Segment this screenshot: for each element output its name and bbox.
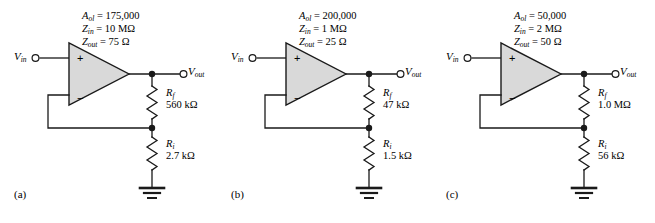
zout-value-a: 75 Ω bbox=[109, 36, 130, 47]
input-label-c: Vin bbox=[446, 51, 459, 63]
output-label-b: Vout bbox=[405, 66, 421, 78]
aol-equals-c: = bbox=[529, 10, 535, 21]
spec-zout-c: Zout = 50 Ω bbox=[514, 37, 566, 50]
circuit-panel-c: + − Aol = 50,000 Zin = 2 MΩ Zout = 50 Ω … bbox=[432, 0, 650, 223]
spec-zout-b: Zout = 25 Ω bbox=[299, 37, 357, 50]
zin-equals-b: = bbox=[313, 23, 319, 34]
wire-feedback-a bbox=[48, 95, 152, 128]
resistor-rf-c bbox=[579, 86, 589, 119]
circuit-panel-a: + − Aol = 175,000 Zin = 10 MΩ Zout = 75 … bbox=[0, 0, 218, 223]
opamp-specs-a: Aol = 175,000 Zin = 10 MΩ Zout = 75 Ω bbox=[82, 11, 140, 50]
zin-subscript-a: in bbox=[88, 27, 94, 36]
inverting-input-sign-b: − bbox=[294, 92, 300, 104]
zout-subscript-c: out bbox=[520, 40, 530, 49]
vin-symbol-a: V bbox=[14, 50, 21, 62]
resistor-ri-a bbox=[147, 137, 157, 170]
input-label-b: Vin bbox=[231, 51, 244, 63]
output-label-c: Vout bbox=[620, 66, 636, 78]
input-label-a: Vin bbox=[14, 51, 27, 63]
output-terminal-b bbox=[397, 71, 404, 78]
zout-value-c: 50 Ω bbox=[541, 36, 562, 47]
zout-equals-c: = bbox=[532, 36, 538, 47]
resistor-ri-b bbox=[364, 137, 374, 170]
aol-equals-a: = bbox=[97, 10, 103, 21]
panel-label-b: (b) bbox=[231, 189, 244, 200]
panel-label-a: (a) bbox=[14, 189, 26, 200]
rf-value-b: 47 kΩ bbox=[383, 100, 409, 111]
aol-value-a: 175,000 bbox=[105, 10, 139, 21]
vin-subscript-b: in bbox=[238, 55, 244, 64]
rf-label-b: Rf bbox=[383, 88, 392, 99]
aol-value-b: 200,000 bbox=[322, 10, 356, 21]
wire-feedback-c bbox=[480, 95, 584, 128]
aol-value-c: 50,000 bbox=[537, 10, 566, 21]
wire-feedback-b bbox=[265, 95, 369, 128]
ri-label-b: Ri bbox=[383, 139, 392, 150]
vin-subscript-a: in bbox=[21, 55, 27, 64]
zout-subscript-a: out bbox=[88, 40, 98, 49]
zin-subscript-c: in bbox=[520, 27, 526, 36]
vout-symbol-a: V bbox=[188, 65, 195, 77]
vout-symbol-c: V bbox=[620, 65, 627, 77]
inverting-input-sign-c: − bbox=[509, 92, 515, 104]
opamp-specs-b: Aol = 200,000 Zin = 1 MΩ Zout = 25 Ω bbox=[299, 11, 357, 50]
resistor-rf-b bbox=[364, 86, 374, 119]
circuit-panel-b: + − Aol = 200,000 Zin = 1 MΩ Zout = 25 Ω… bbox=[217, 0, 435, 223]
noninverting-input-sign-a: + bbox=[77, 52, 83, 64]
resistor-ri-c bbox=[579, 137, 589, 170]
rf-value-c: 1.0 MΩ bbox=[598, 100, 631, 111]
aol-subscript-b: ol bbox=[305, 14, 311, 23]
vout-subscript-c: out bbox=[627, 70, 637, 79]
noninverting-input-sign-c: + bbox=[509, 52, 515, 64]
vout-symbol-b: V bbox=[405, 65, 412, 77]
opamp-specs-c: Aol = 50,000 Zin = 2 MΩ Zout = 50 Ω bbox=[514, 11, 566, 50]
rf-value-a: 560 kΩ bbox=[166, 100, 197, 111]
opamp-circuits-figure: + − Aol = 175,000 Zin = 10 MΩ Zout = 75 … bbox=[0, 0, 655, 223]
rf-label-a: Rf bbox=[166, 88, 175, 99]
ri-label-a: Ri bbox=[166, 139, 175, 150]
ri-value-a: 2.7 kΩ bbox=[166, 151, 195, 162]
output-terminal-c bbox=[612, 71, 619, 78]
ri-value-c: 56 kΩ bbox=[598, 151, 624, 162]
zin-equals-c: = bbox=[528, 23, 534, 34]
ri-value-b: 1.5 kΩ bbox=[383, 151, 412, 162]
input-terminal-a bbox=[32, 55, 39, 62]
output-label-a: Vout bbox=[188, 66, 204, 78]
zout-equals-a: = bbox=[100, 36, 106, 47]
ri-label-c: Ri bbox=[598, 139, 607, 150]
zout-subscript-b: out bbox=[305, 40, 315, 49]
aol-subscript-a: ol bbox=[88, 14, 94, 23]
vin-symbol-b: V bbox=[231, 50, 238, 62]
aol-subscript-c: ol bbox=[520, 14, 526, 23]
spec-zout-a: Zout = 75 Ω bbox=[82, 37, 140, 50]
noninverting-input-sign-b: + bbox=[294, 52, 300, 64]
zin-value-c: 2 MΩ bbox=[537, 23, 562, 34]
input-terminal-b bbox=[249, 55, 256, 62]
zin-subscript-b: in bbox=[305, 27, 311, 36]
zin-value-a: 10 MΩ bbox=[105, 23, 135, 34]
resistor-rf-a bbox=[147, 86, 157, 119]
rf-label-c: Rf bbox=[598, 88, 607, 99]
vout-subscript-a: out bbox=[195, 70, 205, 79]
output-terminal-a bbox=[180, 71, 187, 78]
zin-equals-a: = bbox=[96, 23, 102, 34]
vin-symbol-c: V bbox=[446, 50, 453, 62]
panel-label-c: (c) bbox=[446, 189, 458, 200]
zout-value-b: 25 Ω bbox=[326, 36, 347, 47]
input-terminal-c bbox=[464, 55, 471, 62]
inverting-input-sign-a: − bbox=[77, 92, 83, 104]
aol-equals-b: = bbox=[314, 10, 320, 21]
vin-subscript-c: in bbox=[453, 55, 459, 64]
vout-subscript-b: out bbox=[412, 70, 422, 79]
zin-value-b: 1 MΩ bbox=[322, 23, 347, 34]
zout-equals-b: = bbox=[317, 36, 323, 47]
